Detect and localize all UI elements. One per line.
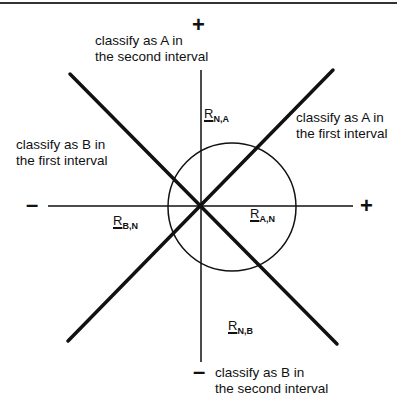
region-label-left: classify as B in the first interval [16,137,108,169]
region-label-top: classify as A in the second interval [95,33,208,65]
vector-label-n-b: RN,B [228,318,253,336]
region-label-right: classify as A in the first interval [296,110,388,142]
region-label-right-line2: the first interval [296,126,388,142]
region-label-bottom-line2: the second interval [215,381,328,397]
region-label-bottom-line1: classify as B in [215,365,328,381]
region-label-top-line1: classify as A in [95,33,208,49]
bottom-minus-sign: – [193,361,205,383]
right-plus-sign: + [360,195,373,217]
noise-circle [168,143,296,271]
vector-subscript: N,B [237,326,253,336]
vector-subscript: B,N [122,221,138,231]
vector-symbol: R [250,206,259,221]
vector-subscript: N,A [213,114,229,124]
vector-symbol: R [113,213,122,228]
vector-label-n-a: RN,A [204,106,229,124]
region-label-left-line1: classify as B in [16,137,108,153]
vector-label-b-n: RB,N [113,213,138,231]
vector-symbol: R [228,318,237,333]
vector-symbol: R [204,106,213,121]
region-label-right-line1: classify as A in [296,110,388,126]
vector-subscript: A,N [259,214,275,224]
region-label-bottom: classify as B in the second interval [215,365,328,397]
region-label-top-line2: the second interval [95,49,208,65]
vector-label-a-n: RA,N [250,206,275,224]
left-minus-sign: – [26,194,38,216]
region-label-left-line2: the first interval [16,153,108,169]
